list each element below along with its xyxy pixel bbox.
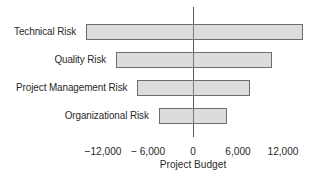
zero-axis-line-overlay — [193, 108, 194, 124]
category-label: Quality Risk — [54, 53, 106, 65]
category-label: Organizational Risk — [65, 109, 149, 121]
x-tick-label: 6,000 — [225, 145, 250, 157]
x-tick-label: 12,000 — [268, 145, 299, 157]
x-axis-title: Project Budget — [160, 158, 226, 170]
category-label: Project Management Risk — [16, 81, 127, 93]
x-tick-label: −12,000 — [85, 145, 122, 157]
bar-technical-risk — [86, 24, 303, 40]
zero-axis-line-overlay — [193, 52, 194, 68]
bar-quality-risk — [116, 52, 272, 68]
category-label: Technical Risk — [14, 25, 76, 37]
tornado-chart: Technical Risk Quality Risk Project Mana… — [0, 0, 318, 183]
zero-axis-line-overlay — [193, 24, 194, 40]
x-tick-label: − 6,000 — [131, 145, 165, 157]
x-tick-label: 0 — [190, 145, 196, 157]
zero-axis-line-overlay — [193, 80, 194, 96]
